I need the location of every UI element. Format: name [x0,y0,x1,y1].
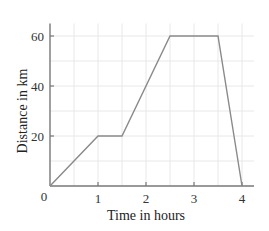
x-tick-label: 4 [239,191,246,206]
x-tick-label: 3 [191,191,198,206]
x-axis-label: Time in hours [107,208,185,223]
grid [50,24,254,187]
axes [50,24,254,187]
chart: 12340204060 Time in hours Distance in km [0,0,269,231]
y-axis-label: Distance in km [15,69,30,154]
x-tick-label: 1 [95,191,102,206]
y-tick-label: 60 [31,29,44,44]
y-tick-label: 40 [31,79,44,94]
origin-label: 0 [41,189,48,204]
tick-labels: 12340204060 [31,29,246,207]
x-tick-label: 2 [143,191,150,206]
y-tick-label: 20 [31,129,44,144]
